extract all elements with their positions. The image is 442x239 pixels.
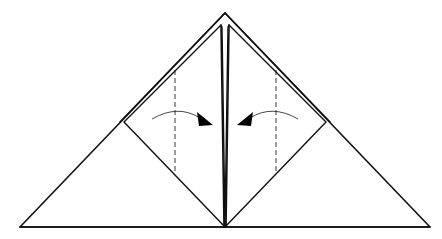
right-flap xyxy=(225,25,326,227)
left-flap xyxy=(124,25,225,227)
origami-diagram xyxy=(0,0,442,239)
